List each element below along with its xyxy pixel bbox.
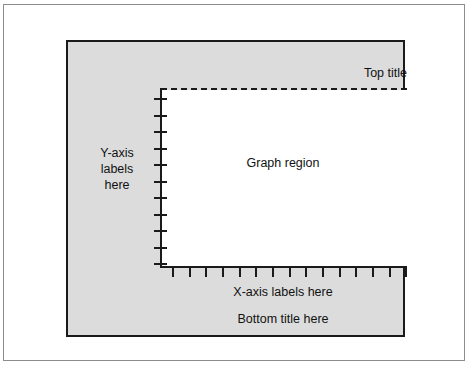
figure-outer-frame: Top title Graph region Y-axis labels her…: [3, 4, 465, 361]
x-axis-tick: [255, 266, 257, 277]
x-axis-tick: [172, 266, 174, 277]
x-axis-tick: [372, 266, 374, 277]
y-axis-label-line: labels: [82, 161, 152, 177]
x-axis-line: [160, 266, 407, 268]
y-axis-tick: [154, 263, 167, 265]
x-axis-tick: [205, 266, 207, 277]
x-axis-tick: [322, 266, 324, 277]
y-axis-tick: [154, 247, 167, 249]
x-axis-tick: [339, 266, 341, 277]
y-axis-tick: [154, 148, 167, 150]
x-axis-tick: [272, 266, 274, 277]
x-axis-tick: [222, 266, 224, 277]
top-title: Top title: [168, 66, 407, 80]
y-axis-label-line: here: [82, 177, 152, 193]
y-axis-tick: [154, 230, 167, 232]
x-axis-labels: X-axis labels here: [161, 285, 405, 299]
y-axis-label-line: Y-axis: [82, 145, 152, 161]
x-axis-tick: [355, 266, 357, 277]
x-axis-tick: [305, 266, 307, 277]
y-axis-tick: [154, 214, 167, 216]
x-axis-tick: [239, 266, 241, 277]
y-axis-labels: Y-axis labels here: [82, 145, 152, 193]
y-axis-tick: [154, 115, 167, 117]
y-axis-tick: [154, 131, 167, 133]
graph-region: Graph region: [161, 90, 405, 267]
y-axis-tick: [154, 98, 167, 100]
x-axis-tick: [389, 266, 391, 277]
plot-window: Top title Graph region Y-axis labels her…: [66, 40, 405, 337]
x-axis-tick: [189, 266, 191, 277]
bottom-title: Bottom title here: [161, 312, 405, 326]
y-axis-tick: [154, 197, 167, 199]
y-axis-tick: [154, 181, 167, 183]
graph-region-label: Graph region: [161, 156, 405, 170]
y-axis-tick: [154, 164, 167, 166]
x-axis-tick: [405, 266, 407, 277]
x-axis-tick: [289, 266, 291, 277]
